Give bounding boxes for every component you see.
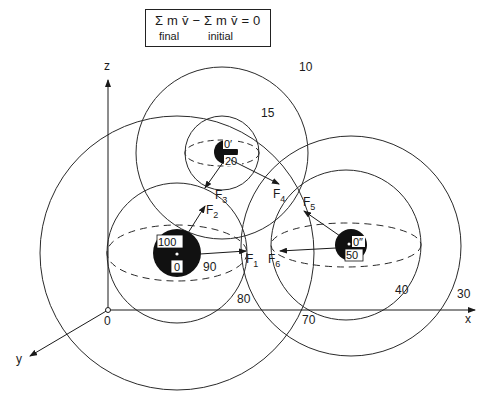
force-f6-arrow — [280, 248, 336, 251]
force-f1-label: F1 — [246, 252, 258, 269]
circle-label-70: 70 — [302, 313, 316, 327]
z-axis-label: z — [104, 59, 110, 73]
force-f1-arrow — [200, 251, 246, 254]
origin-point — [106, 308, 111, 313]
mass-right-center-dot — [348, 243, 351, 246]
force-f2-arrow — [188, 206, 205, 233]
force-f4-arrow — [231, 160, 279, 184]
mass-top-top-label: 0′ — [224, 138, 232, 150]
mass-top-bottom-label: 20 — [225, 155, 237, 167]
mass-large-top-label: 100 — [158, 236, 176, 248]
force-f4-label: F4 — [273, 187, 285, 204]
circle-label-90: 90 — [203, 260, 217, 274]
force-f2-label: F2 — [206, 203, 218, 220]
circle-label-10: 10 — [299, 60, 313, 74]
force-f3-label: F3 — [215, 188, 227, 205]
mass-large-bottom-label: 0 — [174, 261, 180, 273]
circle-label-40: 40 — [395, 283, 409, 297]
mass-right-bottom-label: 50 — [346, 249, 358, 261]
circle-label-80: 80 — [237, 292, 251, 306]
circle-label-30: 30 — [457, 287, 471, 301]
circle-label-15: 15 — [261, 106, 275, 120]
momentum-diagram: x z y 0 100 0 0′ 20 0″ 50 F1 F2 F3 F4 F5… — [0, 0, 496, 407]
y-axis — [30, 310, 108, 356]
origin-label: 0 — [104, 314, 111, 328]
mass-large-center-dot — [175, 252, 178, 255]
force-f5-label: F5 — [303, 195, 315, 212]
y-axis-label: y — [16, 352, 22, 366]
x-axis-label: x — [465, 312, 471, 326]
mass-right-top-label: 0″ — [353, 236, 363, 248]
